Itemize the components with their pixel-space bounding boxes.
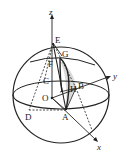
label-y: y (112, 71, 117, 81)
x-axis (52, 98, 96, 140)
point-O (51, 97, 54, 100)
label-H: H (70, 84, 77, 94)
edge-ED (29, 43, 53, 110)
label-x: x (96, 142, 101, 152)
label-O: O (42, 93, 49, 103)
label-C: C (43, 76, 49, 86)
label-G: G (62, 49, 69, 59)
label-F: F (48, 59, 53, 69)
sphere-diagram: z y x E G F C H B O D A (0, 0, 123, 155)
label-D: D (25, 112, 32, 122)
label-A: A (62, 112, 69, 122)
label-z: z (48, 7, 53, 17)
label-B: B (78, 81, 84, 91)
label-E: E (55, 35, 61, 45)
